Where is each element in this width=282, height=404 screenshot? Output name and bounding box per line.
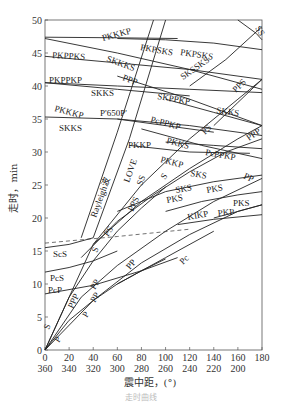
- curve-label: SKS: [190, 168, 208, 181]
- y-tick-label: 25: [32, 180, 42, 191]
- curve-label: PKP: [217, 207, 234, 218]
- x-tick-label: 0: [43, 352, 48, 363]
- y-tick-label: 5: [37, 312, 42, 323]
- curve-label: SKKS: [91, 88, 114, 98]
- curve-label: S: [89, 246, 100, 254]
- curve-label: PKKP: [159, 154, 184, 170]
- curve-labels: PKKKPPKPSKSPKPSKSSSPKPPKSSKKKSSKSSKSPKPP…: [41, 24, 266, 344]
- curve-pp: [45, 205, 262, 350]
- y-tick-label: 20: [32, 213, 42, 224]
- x-tick-label: 180: [255, 352, 270, 363]
- curve-label: SS: [134, 174, 147, 187]
- curve-label: ScS: [53, 249, 67, 259]
- x-tick-label-secondary: 240: [182, 363, 197, 374]
- y-tick-label: 10: [32, 279, 42, 290]
- y-axis: 05101520253035404550: [32, 15, 48, 356]
- x-tick-label-secondary: 280: [134, 363, 149, 374]
- curve-label: PKS: [206, 182, 224, 195]
- curve-label: KIKP: [187, 208, 209, 221]
- x-tick-label-secondary: 260: [158, 363, 173, 374]
- y-tick-label: 50: [32, 15, 42, 26]
- x-tick-label-secondary: 360: [38, 363, 53, 374]
- x-tick-label-secondary: 320: [86, 363, 101, 374]
- y-tick-label: 30: [32, 147, 42, 158]
- x-tick-label-secondary: 200: [230, 363, 245, 374]
- curve-label: PPP: [244, 126, 262, 143]
- curve-label: PS: [199, 122, 213, 136]
- x-axis-label: 震中距，(°): [124, 376, 177, 388]
- curve-label: P: [52, 335, 63, 344]
- curve-pc: [117, 231, 214, 284]
- curve-label: PPP: [66, 292, 81, 310]
- curve-label: P: [80, 310, 91, 319]
- curve-label: PcS: [50, 273, 64, 283]
- curve-label: PcPPKP: [149, 114, 181, 132]
- x-tick-label: 80: [136, 352, 146, 363]
- y-tick-label: 0: [37, 345, 42, 356]
- curve-label: SKKS: [59, 123, 82, 133]
- x-axis: 0360203404032060300802801002601202401402…: [38, 347, 270, 374]
- curve-label: PKKS: [165, 135, 190, 151]
- curve-label: S: [158, 171, 169, 181]
- y-tick-label: 35: [32, 114, 42, 125]
- y-tick-label: 40: [32, 81, 42, 92]
- y-tick-label: 45: [32, 48, 42, 59]
- curve-label: PKS: [166, 192, 184, 205]
- curve-label: S: [41, 323, 52, 331]
- x-tick-label: 140: [206, 352, 221, 363]
- x-tick-label: 20: [64, 352, 74, 363]
- curve-label: Pc: [177, 253, 190, 266]
- x-tick-label: 120: [182, 352, 197, 363]
- travel-time-chart: 05101520253035404550 0360203404032060300…: [0, 0, 282, 404]
- x-tick-label: 100: [158, 352, 173, 363]
- x-tick-label: 40: [88, 352, 98, 363]
- x-tick-label: 160: [230, 352, 245, 363]
- curve-label: PKKP: [128, 140, 151, 150]
- curve-label: SS: [253, 24, 267, 38]
- x-tick-label-secondary: 220: [206, 363, 221, 374]
- curve-label: PKKKP: [101, 26, 132, 43]
- curve-label: SKKS: [216, 105, 240, 118]
- y-tick-label: 15: [32, 246, 42, 257]
- x-tick-label-secondary: 300: [110, 363, 125, 374]
- curve-label: PP: [88, 290, 102, 304]
- y-axis-label: 走时，min: [8, 163, 19, 213]
- figure-caption: 走时曲线: [0, 391, 282, 402]
- curve-label: PKPPKS: [52, 50, 86, 62]
- x-tick-label-secondary: 340: [62, 363, 77, 374]
- curve-label: PKPSKS: [140, 42, 174, 58]
- curve-label: PKPPKP: [49, 75, 82, 85]
- curve-label: SKPPKP: [157, 91, 191, 107]
- x-tick-label: 60: [112, 352, 122, 363]
- curve-label: PKS: [233, 198, 250, 208]
- curve-label: PcP: [48, 285, 62, 295]
- curve-label: P'650P': [100, 108, 127, 118]
